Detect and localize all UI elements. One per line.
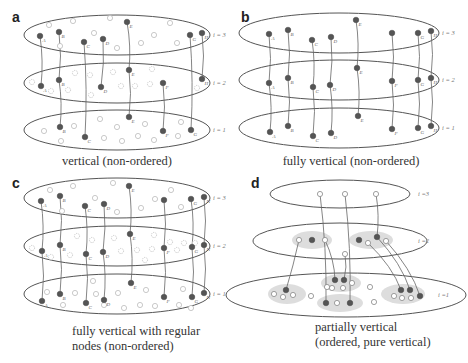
interlayer-edge <box>164 248 166 297</box>
regular-node-dashed <box>67 252 72 257</box>
regular-node <box>152 303 157 308</box>
interlayer-edge <box>313 87 315 136</box>
node-label: G <box>421 35 425 40</box>
layer-label: i = 1 <box>213 290 226 297</box>
panel-letter: a <box>12 9 20 25</box>
panel-a: ai = 3i = 2i = 1ABCDEGHABDEFHBCEFGvertic… <box>12 9 226 168</box>
node-label: C <box>88 208 92 213</box>
interlayer-edge <box>190 35 192 130</box>
node-label: A <box>44 253 49 258</box>
regular-node <box>90 278 95 283</box>
regular-node <box>110 180 115 185</box>
panel-letter: c <box>12 175 20 191</box>
node-label: E <box>358 22 362 27</box>
regular-node <box>180 286 185 291</box>
node-label: H <box>433 33 438 38</box>
layer-label: i = 2 <box>442 76 455 83</box>
regular-node <box>91 30 96 35</box>
regular-node <box>329 285 334 290</box>
interlayer-edge <box>41 201 43 251</box>
node-label: H <box>206 247 211 252</box>
regular-node <box>271 291 276 296</box>
regular-node-dashed <box>29 245 34 250</box>
regular-node-dashed <box>118 248 123 253</box>
regular-node <box>142 121 147 126</box>
node-label: G <box>194 132 198 137</box>
interlayer-edge <box>392 81 394 129</box>
regular-node <box>340 285 345 290</box>
vertical-node <box>283 287 289 293</box>
node-label: B <box>291 32 294 37</box>
layer-label: i = 1 <box>213 126 226 133</box>
regular-node <box>178 119 183 124</box>
regular-node <box>373 191 378 196</box>
interlayer-edge <box>191 199 193 247</box>
vertical-node <box>398 287 404 293</box>
regular-node <box>137 302 142 307</box>
regular-node-dashed <box>174 247 179 252</box>
regular-node-dashed <box>151 232 156 237</box>
node-label: B <box>291 80 294 85</box>
regular-node <box>138 205 143 210</box>
vertical-node <box>374 234 380 240</box>
panel-letter: d <box>251 175 260 191</box>
interlayer-edge <box>431 31 433 78</box>
layer-ellipse <box>24 63 210 103</box>
regular-node <box>41 128 46 133</box>
interlayer-edge <box>288 78 290 126</box>
vertical-node <box>347 300 353 306</box>
regular-node <box>47 187 52 192</box>
regular-node <box>92 195 97 200</box>
vertical-node <box>417 293 423 299</box>
node-label: D <box>103 89 108 94</box>
node-label: E <box>131 119 135 124</box>
node-label: G <box>421 82 425 87</box>
regular-node-dashed <box>48 88 53 93</box>
vertical-node <box>341 277 347 283</box>
regular-node <box>72 290 77 295</box>
regular-node <box>296 237 301 242</box>
panel-caption: fully vertical with regular <box>72 324 201 338</box>
interlayer-edge <box>59 32 61 80</box>
interlayer-edge <box>286 240 299 290</box>
interlayer-edge <box>269 83 271 132</box>
regular-node <box>322 237 327 242</box>
panel-caption: partially vertical <box>315 320 398 334</box>
node-label: C <box>316 89 320 94</box>
node-label: B <box>62 34 65 39</box>
regular-node <box>57 43 62 48</box>
interlayer-edge <box>376 194 378 237</box>
node-label: G <box>195 249 199 254</box>
layer-label: i =1 <box>438 291 449 298</box>
regular-node <box>290 292 295 297</box>
node-label: D <box>106 206 111 211</box>
regular-node <box>71 123 76 128</box>
panel-c: ci = 3i = 2i = 1ABCDEGHABCDEFGHABCDEFGHf… <box>12 175 226 353</box>
node-label: F <box>165 133 170 138</box>
node-label: H <box>206 199 211 204</box>
interlayer-edge <box>40 36 42 86</box>
regular-node-dashed <box>167 239 172 244</box>
regular-node <box>93 291 98 296</box>
regular-node <box>175 133 180 138</box>
regular-node <box>70 18 75 23</box>
interlayer-edge <box>85 206 87 254</box>
interlayer-edge <box>130 234 132 283</box>
node-label: A <box>271 85 276 90</box>
interlayer-edge <box>356 20 358 68</box>
regular-node <box>383 238 388 243</box>
node-label: B <box>62 82 65 87</box>
regular-node <box>174 40 179 45</box>
regular-node-dashed <box>134 247 139 252</box>
regular-node-dashed <box>87 72 92 77</box>
regular-node <box>408 295 413 300</box>
interlayer-edge <box>103 252 105 300</box>
node-label: F <box>165 85 170 90</box>
interlayer-edge <box>59 80 61 127</box>
node-label: E <box>131 188 135 193</box>
regular-node <box>308 293 313 298</box>
interlayer-edge <box>288 30 290 78</box>
node-label: G <box>421 130 425 135</box>
regular-node-dashed <box>149 246 154 251</box>
node-label: H <box>433 80 438 85</box>
